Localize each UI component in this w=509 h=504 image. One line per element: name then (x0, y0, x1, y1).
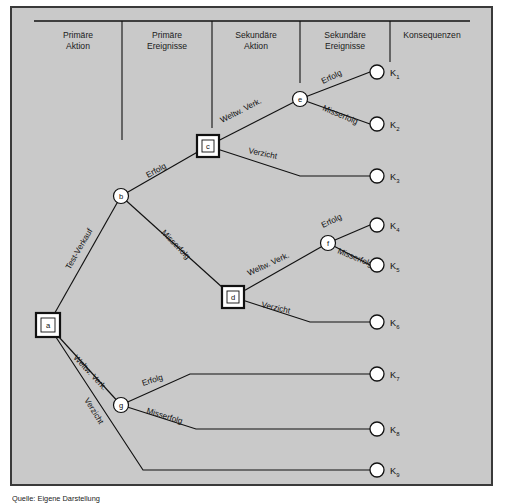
figure-caption: Quelle: Eigene Darstellung (12, 494, 492, 503)
figure-frame (10, 6, 493, 486)
decision-tree-figure: Primäre Aktion Primäre Ereignisse Sekund… (0, 0, 509, 504)
